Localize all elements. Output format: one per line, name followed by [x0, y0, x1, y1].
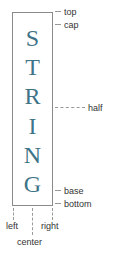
label-half: half [55, 103, 103, 113]
dash-line [55, 107, 85, 108]
label-base: base [55, 186, 84, 196]
label-center: center [17, 237, 42, 247]
letter-g: G [12, 172, 53, 196]
label-base-text: base [64, 186, 84, 196]
dash-line [55, 24, 61, 25]
dash-line [55, 190, 61, 191]
label-cap: cap [55, 20, 79, 30]
letter-r: R [12, 84, 53, 108]
label-bottom: bottom [55, 199, 92, 209]
label-bottom-text: bottom [64, 199, 92, 209]
label-cap-text: cap [64, 20, 79, 30]
letter-s: S [12, 26, 53, 50]
left-tick-line [13, 208, 14, 220]
label-top-text: top [64, 7, 77, 17]
center-tick-line [32, 208, 33, 235]
label-top: top [55, 7, 77, 17]
dash-line [55, 11, 61, 12]
letter-t: T [12, 55, 53, 79]
label-left: left [6, 221, 18, 231]
right-tick-line [52, 208, 53, 220]
label-half-text: half [88, 103, 103, 113]
letter-n: N [12, 143, 53, 167]
dash-line [55, 203, 61, 204]
letter-i: I [12, 114, 53, 138]
label-right: right [41, 221, 59, 231]
